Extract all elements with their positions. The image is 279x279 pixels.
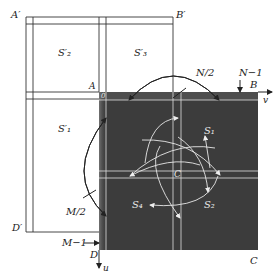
label-u-axis: u [103,264,109,273]
label-b: B [250,80,257,90]
label-c: C [250,256,258,266]
label-m-minus-1: M−1 [62,238,87,248]
label-b-prime: B′ [176,10,186,20]
diagram-canvas [0,0,279,279]
label-center-c: C [174,170,181,179]
label-a-prime: A′ [11,10,21,20]
label-n-half: N/2 [196,68,214,78]
label-n-minus-1: N−1 [239,68,263,78]
label-s2: S₂ [204,200,215,210]
label-s2-prime: S′₂ [58,48,71,58]
label-v-axis: v [263,96,268,105]
label-m-half: M/2 [66,207,86,217]
label-s3-prime: S′₃ [134,48,147,58]
label-s4: S₄ [132,200,143,210]
label-d-prime: D′ [12,223,22,233]
label-origin: 0 [101,93,105,100]
label-d: D [90,250,98,260]
label-s1: S₁ [204,126,215,136]
label-s1-prime: S′₁ [58,124,71,134]
label-a: A [89,82,96,91]
